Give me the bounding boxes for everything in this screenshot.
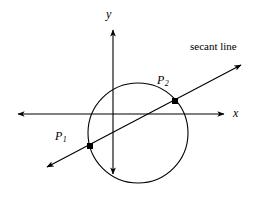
secant-line-label: secant line xyxy=(190,41,237,52)
point-label-p1-subscript: 1 xyxy=(63,135,67,144)
point-label-p2-letter: P xyxy=(157,73,164,87)
point-label-p1-letter: P xyxy=(55,129,62,143)
point-marker-p2 xyxy=(172,98,178,104)
point-marker-p1 xyxy=(87,143,93,149)
geometry-figure: y x P1 P2 secant line xyxy=(0,0,258,203)
secant-line xyxy=(47,65,241,167)
y-axis-label: y xyxy=(106,8,111,20)
point-label-p2-subscript: 2 xyxy=(165,79,169,88)
geometry-canvas xyxy=(0,0,258,203)
point-label-p2: P2 xyxy=(157,74,168,86)
point-label-p1: P1 xyxy=(55,130,66,142)
x-axis-label: x xyxy=(233,107,238,119)
